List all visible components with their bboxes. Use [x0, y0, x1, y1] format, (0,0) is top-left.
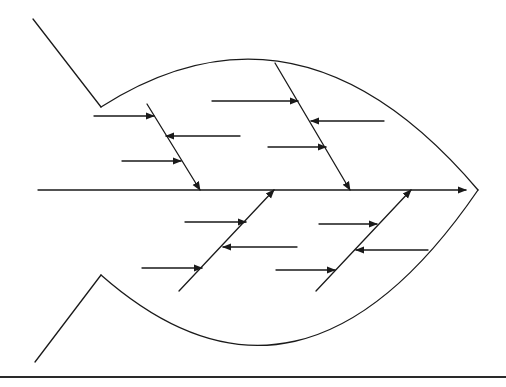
bone-arrow-upper-left: [147, 104, 200, 190]
bone-lower-left: [142, 190, 297, 291]
bone-arrow-lower-left: [179, 190, 274, 291]
tail-fin-bottom: [35, 275, 101, 362]
fish-bones: [94, 63, 428, 291]
fishbone-diagram: [0, 0, 506, 387]
bone-upper-left: [94, 104, 240, 190]
bone-upper-right: [212, 63, 384, 190]
body-curve-top: [101, 59, 478, 190]
bone-lower-right: [276, 190, 428, 291]
fishbone-diagram-canvas: [0, 0, 506, 387]
bone-arrow-upper-right: [275, 63, 350, 190]
bone-arrow-lower-right: [316, 190, 411, 291]
tail-fin-top: [33, 19, 101, 107]
